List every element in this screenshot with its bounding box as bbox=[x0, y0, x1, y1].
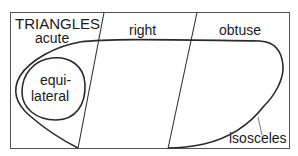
set-label-equilateral-line1: equi- bbox=[40, 73, 71, 87]
set-label-equilateral-line2: lateral bbox=[31, 89, 69, 103]
region-label-obtuse: obtuse bbox=[219, 23, 261, 37]
set-label-isosceles: isosceles bbox=[229, 131, 287, 145]
diagram-title: TRIANGLES bbox=[15, 16, 100, 31]
divider-right-obtuse bbox=[168, 13, 197, 149]
region-label-acute: acute bbox=[35, 31, 69, 45]
region-label-right: right bbox=[129, 23, 156, 37]
divider-acute-right bbox=[78, 13, 104, 149]
